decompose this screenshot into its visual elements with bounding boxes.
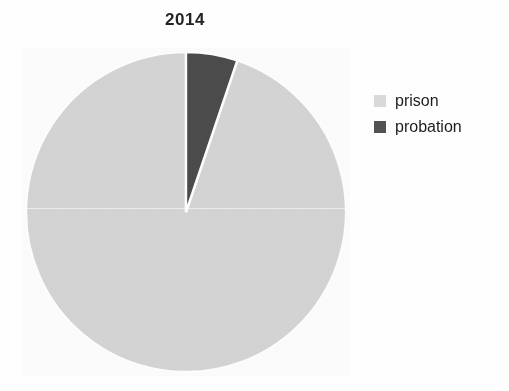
pie-chart-figure: 2014 prison probation bbox=[0, 0, 509, 391]
legend-item-prison[interactable]: prison bbox=[374, 88, 506, 114]
chart-legend: prison probation bbox=[374, 88, 506, 140]
legend-label-probation: probation bbox=[395, 119, 462, 135]
legend-item-probation[interactable]: probation bbox=[374, 114, 506, 140]
legend-swatch-icon-prison bbox=[374, 95, 386, 107]
chart-title: 2014 bbox=[0, 10, 370, 30]
pie-svg bbox=[22, 48, 350, 376]
legend-swatch-icon-probation bbox=[374, 121, 386, 133]
pie-plot-area bbox=[22, 48, 350, 376]
legend-label-prison: prison bbox=[395, 93, 439, 109]
